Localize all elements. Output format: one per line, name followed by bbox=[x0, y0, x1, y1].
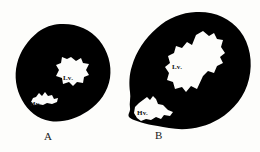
panel-a-caption: A bbox=[44, 131, 52, 142]
panel-b-caption: B bbox=[155, 130, 163, 141]
panel-a-label-lv: Lv. bbox=[63, 75, 73, 82]
panel-b-label-hv: Hv. bbox=[137, 110, 148, 117]
figure-illustration bbox=[0, 0, 260, 152]
panel-a-label-hv: Hv. bbox=[30, 101, 41, 108]
panel-b-label-lv: Lv. bbox=[172, 64, 182, 71]
figure-plate: Lv. Hv. Lv. Hv. A B bbox=[0, 0, 260, 152]
